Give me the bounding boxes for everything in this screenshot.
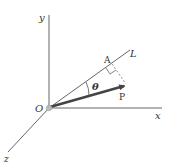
vector-projection-diagram: y x z O L A P θ (0, 0, 173, 165)
y-axis-label: y (38, 12, 45, 23)
z-axis (8, 108, 49, 152)
origin-dot (46, 105, 52, 111)
perpendicular-dashed-line (112, 64, 126, 84)
line-l (49, 50, 130, 108)
angle-theta-label: θ (92, 81, 99, 92)
angle-arc (86, 82, 89, 95)
line-l-label: L (129, 48, 137, 59)
z-axis-label: z (3, 154, 9, 164)
point-p-label: P (119, 92, 125, 102)
point-a-label: A (103, 55, 111, 65)
x-axis-label: x (155, 110, 161, 121)
vector-p (50, 86, 124, 107)
origin-label: O (35, 103, 43, 114)
right-angle-marker (106, 68, 116, 74)
